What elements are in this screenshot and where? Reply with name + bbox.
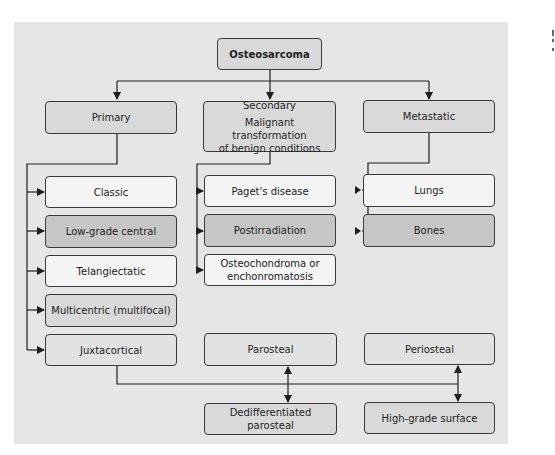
node-classic: Classic: [45, 176, 177, 208]
node-juxtacortical: Juxtacortical: [45, 334, 177, 366]
node-label: Telangiectatic: [77, 265, 146, 278]
node-label: Primary: [92, 111, 131, 124]
node-label: Low-grade central: [66, 225, 157, 238]
node-high-grade-surface: High-grade surface: [364, 402, 495, 434]
node-label: Secondary: [243, 99, 296, 112]
node-sublabel-line2: of benign conditions: [219, 142, 321, 155]
node-parosteal: Parosteal: [204, 333, 337, 366]
node-label: Osteosarcoma: [229, 48, 309, 61]
node-primary: Primary: [45, 101, 177, 134]
node-low-grade-central: Low-grade central: [45, 215, 177, 248]
node-periosteal: Periosteal: [364, 333, 495, 365]
node-label: Dedifferentiated parosteal: [209, 406, 332, 432]
node-dedifferentiated-parosteal: Dedifferentiated parosteal: [204, 403, 337, 435]
node-label: Paget's disease: [231, 185, 308, 198]
node-label: High-grade surface: [382, 412, 478, 425]
node-label-line1: Osteochondroma or: [220, 257, 319, 270]
node-telangiectatic: Telangiectatic: [45, 255, 177, 287]
node-label: Classic: [94, 186, 129, 199]
node-label: Multicentric (multifocal): [51, 304, 170, 317]
node-label: Postirradiation: [234, 224, 306, 237]
node-osteosarcoma: Osteosarcoma: [217, 38, 322, 70]
node-sublabel-line1: Malignant transformation: [208, 116, 331, 142]
node-label: Parosteal: [248, 343, 294, 356]
node-pagets-disease: Paget's disease: [204, 175, 336, 207]
node-metastatic: Metastatic: [363, 100, 495, 133]
node-label-line2: enchonromatosis: [227, 270, 313, 283]
node-postirradiation: Postirradiation: [204, 214, 336, 247]
node-osteochondroma: Osteochondroma or enchonromatosis: [204, 254, 336, 286]
node-label: Periosteal: [405, 343, 454, 356]
node-label: Metastatic: [403, 110, 455, 123]
node-bones: Bones: [363, 214, 495, 247]
node-label: Lungs: [414, 184, 444, 197]
node-secondary: Secondary Malignant transformation of be…: [203, 101, 336, 152]
node-lungs: Lungs: [363, 174, 495, 207]
node-label: Juxtacortical: [80, 344, 142, 357]
node-label: Bones: [414, 224, 445, 237]
node-multicentric: Multicentric (multifocal): [45, 294, 177, 327]
